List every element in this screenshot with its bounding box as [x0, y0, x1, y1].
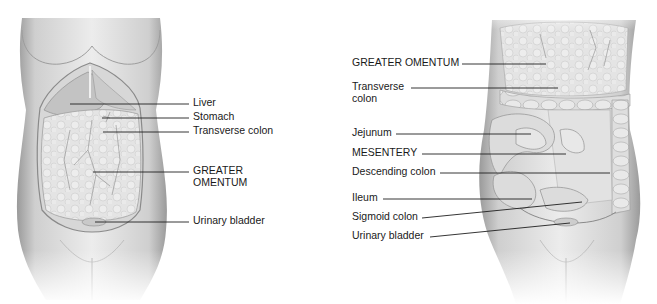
- label-greater-omentum-line2: OMENTUM: [193, 177, 247, 189]
- label-transverse-colon: Transverse colon: [193, 125, 273, 137]
- label-greater-omentum: GREATER OMENTUM: [352, 57, 459, 69]
- label-urinary-bladder: Urinary bladder: [193, 215, 265, 227]
- label-jejunum: Jejunum: [352, 127, 392, 139]
- label-stomach: Stomach: [193, 111, 234, 123]
- label-sigmoid-colon: Sigmoid colon: [352, 211, 418, 223]
- label-greater-omentum-line1: GREATER: [193, 165, 243, 177]
- label-ileum: Ileum: [352, 192, 378, 204]
- right-torso-illustration: [470, 0, 657, 304]
- label-descending-colon: Descending colon: [352, 166, 435, 178]
- label-liver: Liver: [193, 97, 216, 109]
- label-transverse-colon-line1: Transverse: [352, 81, 404, 93]
- left-torso-illustration: [0, 18, 180, 304]
- label-urinary-bladder-right: Urinary bladder: [352, 230, 424, 242]
- anatomy-diagram: Liver Stomach Transverse colon GREATER O…: [0, 0, 657, 304]
- illustration: [0, 0, 657, 304]
- label-mesentery: MESENTERY: [352, 147, 417, 159]
- label-transverse-colon-line2: colon: [352, 93, 377, 105]
